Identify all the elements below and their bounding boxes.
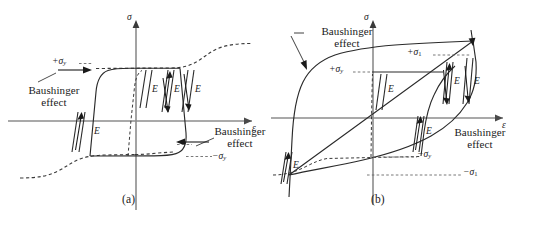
panel-b: Baushinger effect +σ1 +σy −σy −σ1 Baushi… bbox=[271, 0, 542, 225]
caption-a: (a) bbox=[122, 193, 135, 206]
elastic-segment-group-b bbox=[281, 30, 475, 184]
hysteresis-loop-a bbox=[90, 68, 186, 156]
axes-a bbox=[8, 20, 252, 210]
label-plus-sigma-y-a: +σy bbox=[52, 56, 66, 67]
baushinger-lower-line2-b: effect bbox=[447, 138, 513, 150]
label-minus-sigma-y-a: −σy bbox=[212, 151, 226, 162]
baushinger-upper-line1-a: Baushinger bbox=[14, 84, 94, 96]
label-plus-sigma-y-b: +σy bbox=[329, 64, 343, 75]
label-E-a-1: E bbox=[94, 126, 100, 137]
panel-a: +σy Baushinger effect Baushinger effect … bbox=[0, 0, 271, 225]
elastic-segment-b-4 bbox=[443, 62, 453, 105]
elastic-segment-b-5 bbox=[463, 58, 473, 104]
label-E-a-3: E bbox=[174, 84, 180, 95]
figure-root: +σy Baushinger effect Baushinger effect … bbox=[0, 0, 543, 225]
label-baushinger-upper-b: Baushinger effect bbox=[307, 25, 387, 50]
axis-label-sigma-b: σ bbox=[364, 12, 369, 23]
label-E-b-2: E bbox=[388, 84, 394, 95]
elastic-segment-a-2 bbox=[140, 70, 152, 108]
label-minus-sigma-1-b: −σ1 bbox=[463, 167, 478, 178]
label-baushinger-lower-a: Baushinger effect bbox=[209, 125, 271, 150]
caption-b: (b) bbox=[371, 193, 385, 206]
baushinger-upper-line2-b: effect bbox=[307, 37, 387, 49]
baushinger-upper-line2-a: effect bbox=[14, 96, 94, 108]
baushinger-lower-line1-a: Baushinger bbox=[209, 125, 271, 137]
axis-label-epsilon-a: ε bbox=[252, 123, 256, 134]
elastic-segment-group-a bbox=[72, 70, 194, 152]
outer-hysteresis-loop-b bbox=[289, 41, 476, 197]
baushinger-upper-line1-b: Baushinger bbox=[307, 25, 387, 37]
elastic-segment-a-3 bbox=[162, 70, 174, 113]
label-minus-sigma-y-b: −σy bbox=[417, 149, 431, 160]
label-E-b-3: E bbox=[426, 126, 432, 137]
label-E-b-1: E bbox=[293, 160, 299, 171]
axis-label-sigma-a: σ bbox=[127, 12, 132, 23]
baushinger-lower-line2-a: effect bbox=[209, 137, 271, 149]
label-E-b-4: E bbox=[454, 76, 460, 87]
label-baushinger-upper-a: Baushinger effect bbox=[14, 84, 94, 109]
label-E-b-5: E bbox=[474, 76, 480, 87]
axis-label-epsilon-b: ε bbox=[502, 120, 506, 131]
label-E-a-4: E bbox=[195, 84, 201, 95]
label-E-a-2: E bbox=[152, 84, 158, 95]
annotation-leaders-a bbox=[0, 0, 214, 157]
panel-a-plot bbox=[0, 0, 271, 225]
elastic-segment-a-1 bbox=[72, 112, 85, 152]
label-plus-sigma-1-b: +σ1 bbox=[407, 47, 422, 58]
